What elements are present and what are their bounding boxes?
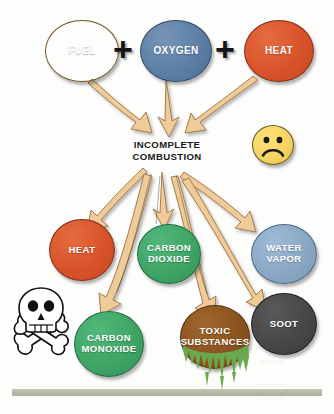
node-label: FUEL <box>65 45 99 56</box>
node-heat-input[interactable]: HEAT <box>244 20 314 82</box>
node-label: TOXIC SUBSTANCES <box>178 326 253 347</box>
node-toxic-substances[interactable]: TOXIC SUBSTANCES <box>180 305 250 369</box>
paper-smudge <box>258 396 284 399</box>
process-caption: INCOMPLETE COMBUSTION <box>110 139 224 163</box>
node-soot[interactable]: SOOT <box>251 293 317 355</box>
skull-glyph <box>19 288 63 332</box>
plus-operator-2: + <box>215 32 235 66</box>
arrow-heat-to-center <box>185 76 258 133</box>
process-caption-line-1: INCOMPLETE <box>134 139 200 150</box>
node-carbon-dioxide[interactable]: CARBON DIOXIDE <box>137 224 201 284</box>
node-heat-output[interactable]: HEAT <box>49 219 115 281</box>
skull-eye-left <box>28 300 38 312</box>
skull-eye-right <box>44 300 54 312</box>
node-water-vapor[interactable]: WATER VAPOR <box>251 224 317 284</box>
node-label: CARBON DIOXIDE <box>138 243 200 264</box>
arrow-center-to-water-vapor <box>180 172 256 232</box>
skull-teeth <box>29 325 53 332</box>
node-label: OXYGEN <box>150 45 201 56</box>
node-carbon-monoxide[interactable]: CARBON MONOXIDE <box>74 311 144 377</box>
process-caption-line-2: COMBUSTION <box>132 151 201 162</box>
node-label: SOOT <box>267 319 302 330</box>
plus-operator-1: + <box>113 32 133 66</box>
node-oxygen[interactable]: OXYGEN <box>140 20 212 82</box>
paper-smudge <box>256 384 286 387</box>
node-fuel[interactable]: FUEL <box>45 20 119 82</box>
sad-face-glyph <box>253 126 293 164</box>
crossbones-glyph <box>14 313 68 355</box>
arrow-center-to-carbon-dioxide <box>153 172 174 229</box>
node-label: CARBON MONOXIDE <box>75 333 143 354</box>
paper-smudge <box>259 360 283 363</box>
arrow-tail-line <box>156 176 160 224</box>
node-label: HEAT <box>66 245 99 256</box>
skull-nose <box>38 313 45 320</box>
arrow-oxygen-to-center <box>158 78 179 137</box>
node-label: HEAT <box>262 45 296 56</box>
arrow-fuel-to-center <box>88 79 152 133</box>
node-label: WATER VAPOR <box>252 243 316 264</box>
ground-bar <box>12 389 322 396</box>
sad-face-icon <box>252 125 294 165</box>
combustion-diagram: FUEL + OXYGEN + HEAT INCOMPLETE COMBUSTI… <box>0 0 334 414</box>
